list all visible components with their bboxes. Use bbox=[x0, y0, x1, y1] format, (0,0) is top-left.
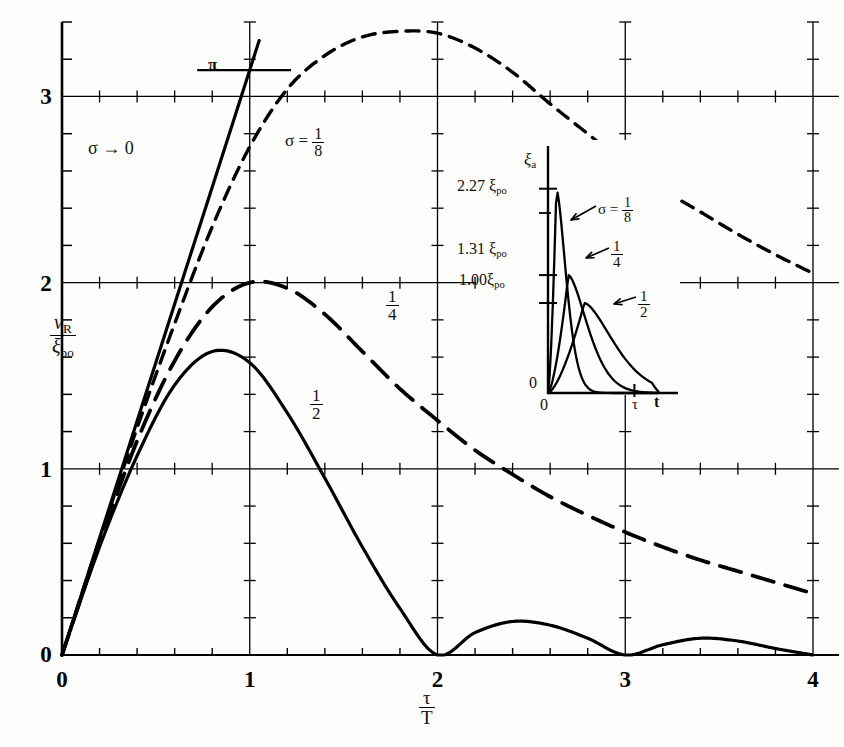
x-tick-label-3: 3 bbox=[620, 667, 632, 692]
inset-half-label: 1 2 bbox=[638, 289, 650, 320]
inset-origin-y-label: 0 bbox=[529, 374, 537, 392]
x-tick-label-0: 0 bbox=[56, 667, 68, 692]
inset-quarter-label: 1 4 bbox=[611, 239, 623, 270]
inset-sigma-eighth-label: σ = 1 8 bbox=[598, 196, 633, 225]
x-tick-label-1: 1 bbox=[244, 667, 256, 692]
y-tick-label-1: 1 bbox=[40, 457, 52, 482]
y-tick-label-3: 3 bbox=[40, 84, 52, 109]
y-axis-title: νR ξpo bbox=[50, 312, 96, 359]
x-tick-label-4: 4 bbox=[807, 667, 819, 692]
inset-ytick-label-131: 1.31 ξpo bbox=[457, 240, 507, 259]
inset-ytick-label-227: 2.27 ξpo bbox=[457, 177, 507, 196]
half-label: 1 2 bbox=[310, 387, 323, 422]
inset-ytick-label-100: 1.00ξpo bbox=[459, 271, 505, 290]
inset-y-axis-title: ξa bbox=[524, 150, 536, 170]
figure-canvas: 012340123 bbox=[0, 0, 844, 747]
quarter-label: 1 4 bbox=[386, 288, 399, 323]
y-tick-label-2: 2 bbox=[40, 271, 52, 296]
inset-origin-x-label: 0 bbox=[540, 396, 548, 414]
inset-tau-label: τ bbox=[632, 396, 638, 413]
sigma-eighth-label: σ = 1 8 bbox=[285, 126, 324, 159]
pi-label: π bbox=[208, 55, 217, 75]
x-axis-title: τ T bbox=[419, 688, 459, 727]
y-tick-label-0: 0 bbox=[40, 642, 52, 667]
sigma-zero-label: σ → 0 bbox=[88, 138, 134, 159]
inset-t-label: t bbox=[654, 393, 659, 411]
